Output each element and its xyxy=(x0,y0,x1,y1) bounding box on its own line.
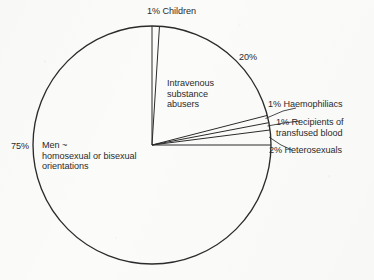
pie-chart-figure: 1% Children 20% Intravenous substance ab… xyxy=(0,0,374,280)
pie-divider-children-end xyxy=(152,26,159,145)
slice-percent-intravenous: 20% xyxy=(239,52,257,63)
pie-divider-haemophiliacs-end xyxy=(152,123,269,145)
slice-percent-men: 75% xyxy=(11,141,29,152)
pie-divider-recipients-end xyxy=(152,130,270,145)
slice-label-children: 1% Children xyxy=(147,6,196,17)
pie-divider-intravenous-end xyxy=(152,115,267,145)
slice-label-men-homosexual-or-bisexual: Men ~ homosexual or bisexual orientation… xyxy=(42,140,136,172)
slice-label-recipients-of-transfused-blood: 1% Recipients of transfused blood xyxy=(276,117,343,138)
slice-label-heterosexuals: 2% Heterosexuals xyxy=(269,145,342,156)
slice-label-intravenous-substance-abusers: Intravenous substance abusers xyxy=(167,78,214,110)
slice-label-haemophiliacs: 1% Haemophiliacs xyxy=(268,99,343,110)
